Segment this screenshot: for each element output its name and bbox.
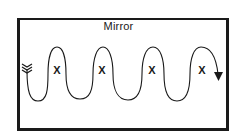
marker-x-1: X [51,64,63,76]
marker-x-3: X [146,64,158,76]
marker-x-4: X [196,64,208,76]
arrowhead-icon [214,72,223,81]
marker-x-2: X [96,64,108,76]
